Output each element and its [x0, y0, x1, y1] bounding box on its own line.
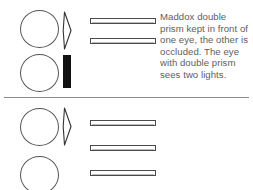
maddox-double-prism-figure: Maddox double prism kept in front of one…: [0, 0, 253, 190]
panel-occluded-case: Maddox double prism kept in front of one…: [0, 0, 253, 98]
light-bar: [90, 38, 156, 44]
panel-both-eyes-open-case: Maddox double prism kept in front of one…: [0, 98, 253, 190]
eye-with-prism: [20, 108, 59, 146]
double-prism-icon: [62, 11, 74, 50]
occluder-icon: [63, 55, 71, 88]
panel-caption: Maddox double prism kept in front of one…: [160, 11, 252, 81]
eye-with-prism: [20, 10, 59, 48]
light-bar: [90, 145, 156, 151]
double-prism-icon: [62, 107, 74, 146]
light-bar: [90, 18, 156, 24]
eye-open: [20, 156, 59, 190]
light-bar: [90, 170, 156, 176]
light-bar: [90, 120, 156, 126]
eye-occluded: [20, 54, 59, 92]
